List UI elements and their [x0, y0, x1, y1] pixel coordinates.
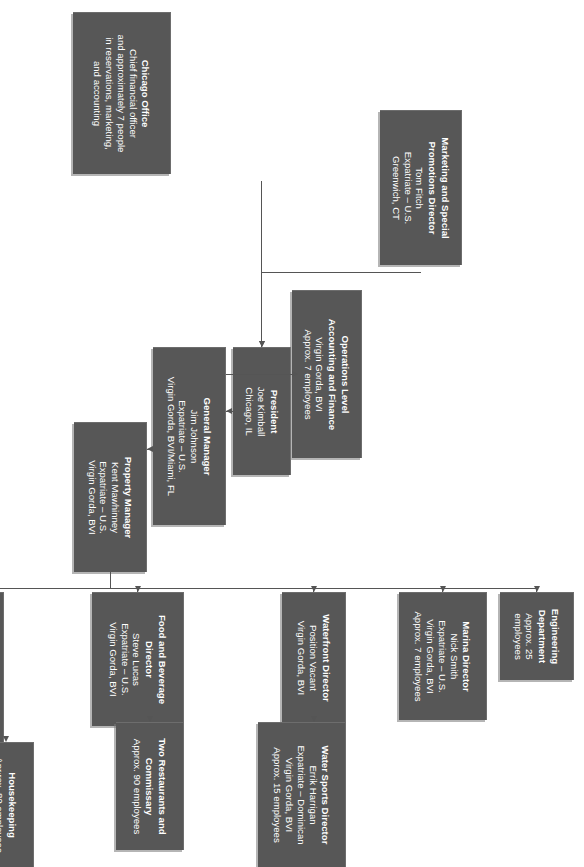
arrowhead-to-marina-director — [441, 586, 447, 592]
node-line: Virgin Gorda, BVI — [295, 621, 307, 695]
node-line: Expatriate – U.S. — [98, 461, 110, 534]
arrowhead-to-operations-accounting — [292, 371, 298, 377]
node-line: and approximately 7 people — [115, 35, 127, 153]
node-line: Steve Lucas — [131, 633, 143, 686]
node-title: Water Sports Director — [320, 746, 332, 845]
node-title: Housekeeping — [6, 772, 18, 838]
node-engineering-department[interactable]: Engineering Department Approx. 25 employ… — [500, 592, 574, 680]
node-food-and-beverage-director[interactable]: Food and Beverage Director Steve Lucas E… — [92, 592, 184, 726]
node-line: Virgin Gorda, BVI — [86, 460, 98, 534]
node-title: Waterfront Director — [320, 614, 332, 702]
node-title: Promotions Director — [426, 142, 438, 235]
node-line: Nick Smith — [448, 634, 460, 680]
node-line: Expatriate – Dominican — [295, 745, 307, 844]
arrowhead-to-two-restaurants-and-commissary — [148, 716, 154, 722]
node-title: Chicago Office — [140, 60, 152, 128]
node-line: Errik Harrigan — [307, 765, 319, 824]
arrowhead-to-general-manager — [226, 408, 232, 414]
node-title: Accounting and Finance — [327, 319, 339, 430]
arrowhead-to-engineering-department — [535, 586, 541, 592]
node-property-manager[interactable]: Property Manager Kent Mawhinney Expatria… — [74, 422, 147, 572]
connector-property-manager-bus — [0, 588, 537, 589]
node-marketing-and-special-promotions-director[interactable]: Marketing and Special Promotions Directo… — [380, 110, 462, 265]
node-line: Tom Fitch — [414, 167, 426, 209]
node-line: Expatriate – U.S. — [177, 400, 189, 473]
node-president[interactable]: President Joe Kimball Chicago, IL — [233, 347, 291, 475]
node-two-restaurants-and-commissary[interactable]: Two Restaurants and Commissary Approx. 9… — [116, 722, 184, 850]
node-line: Approx. 90 employees — [131, 739, 143, 834]
node-rooms-division-manager[interactable]: Rooms Division Manager Kristin Singiser … — [0, 592, 4, 752]
node-title: Property Manager — [122, 457, 134, 539]
node-line: Joe Kimball — [255, 387, 267, 437]
node-title: Engineering — [549, 609, 561, 664]
node-line: Jim Johnson — [189, 410, 201, 464]
node-chicago-office[interactable]: Chicago Office Chief financial officer a… — [73, 12, 171, 174]
connector-marketing-director-to-president — [261, 272, 262, 347]
node-operations-level-accounting-and-finance[interactable]: Operations Level Accounting and Finance … — [292, 290, 362, 458]
node-line: Expatriate – U.S. — [119, 623, 131, 696]
node-waterfront-director[interactable]: Waterfront Director Position Vacant Virg… — [282, 592, 346, 723]
node-title: Two Restaurants and — [156, 738, 168, 834]
node-general-manager[interactable]: General Manager Jim Johnson Expatriate –… — [153, 347, 226, 525]
connector-gm-to-operations-riser — [226, 374, 292, 375]
node-line: Virgin Gorda, BVI — [107, 622, 119, 696]
node-line: Approx. 25 — [524, 613, 536, 659]
node-title: Food and Beverage — [156, 615, 168, 704]
arrowhead-to-water-sports-director — [312, 716, 318, 722]
arrowhead-to-housekeeping — [4, 736, 10, 742]
node-title: Department — [537, 610, 549, 663]
node-water-sports-director[interactable]: Water Sports Director Errik Harrigan Exp… — [258, 722, 346, 867]
node-line: Expatriate – U.S. — [402, 152, 414, 225]
node-title: Marketing and Special — [439, 137, 451, 238]
node-line: Position Vacant — [307, 625, 319, 691]
node-housekeeping[interactable]: Housekeeping Approx. 80 employees — [0, 742, 34, 867]
node-line: employees — [512, 613, 524, 659]
node-line: Greenwich, CT — [390, 156, 402, 220]
arrowhead-to-food-and-beverage-director — [136, 586, 142, 592]
node-line: Virgin Gorda, BVI — [283, 758, 295, 832]
node-line: Chicago, IL — [243, 387, 255, 436]
node-title: Marina Director — [461, 621, 473, 691]
node-title: Commissary — [144, 758, 156, 816]
node-title: President — [268, 390, 280, 434]
node-line: Approx. 7 employees — [302, 329, 314, 419]
node-line: Chief financial officer — [127, 49, 139, 138]
node-marina-director[interactable]: Marina Director Nick Smith Expatriate – … — [399, 592, 487, 720]
node-title: Director — [143, 641, 155, 678]
node-title: Operations Level — [339, 336, 351, 414]
connector-property-manager-stem — [110, 572, 111, 588]
arrowhead-to-property-manager — [147, 446, 153, 452]
node-line: in reservations, marketing, — [103, 37, 115, 150]
node-line: Virgin Gorda, BVI — [314, 337, 326, 411]
node-line: Approx. 15 employees — [272, 747, 284, 842]
node-line: Expatriate – U.S. — [436, 620, 448, 693]
arrowhead-marketing-to-president — [260, 341, 266, 347]
node-line: Approx. 7 employees — [413, 611, 425, 701]
node-line: and accounting — [92, 61, 104, 126]
connector-rooms-division-bus — [0, 772, 6, 773]
node-line: Virgin Gorda, BVI — [424, 619, 436, 693]
node-line: Kent Mawhinney — [110, 462, 122, 533]
node-title: General Manager — [201, 398, 213, 476]
arrowhead-to-waterfront-director — [312, 586, 318, 592]
node-line: Virgin Gorda, BVI/Miami, FL — [165, 377, 177, 496]
connector-marketing-director-drop — [261, 272, 421, 273]
